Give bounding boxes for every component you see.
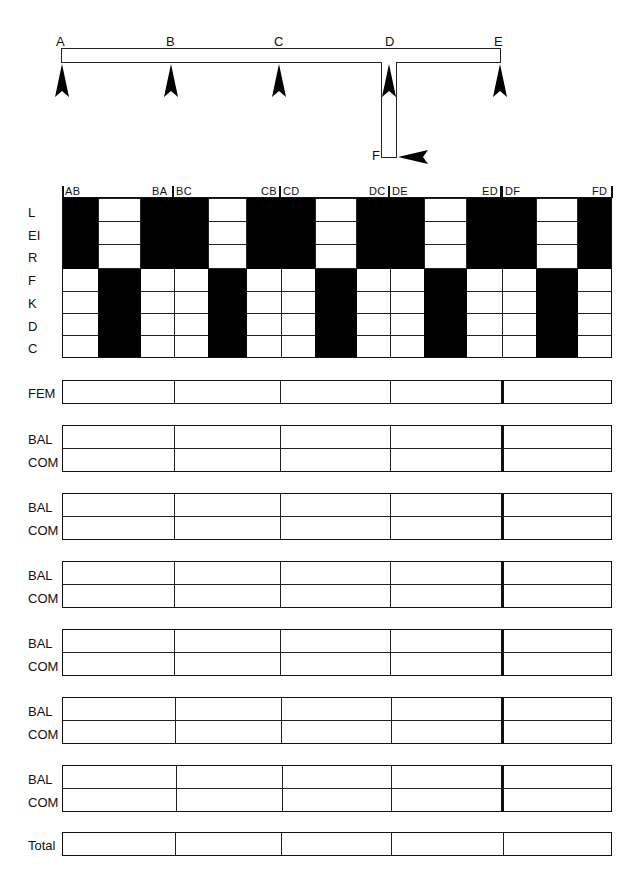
col-header-ed: ED [482, 185, 498, 197]
bal-com-group-4[interactable] [62, 629, 612, 676]
grid-input-ei-df[interactable] [536, 221, 578, 245]
col-header-df: DF [505, 185, 520, 197]
fem-label: FEM [28, 386, 55, 401]
support-icons [0, 0, 643, 200]
support-icon-f [398, 150, 428, 164]
col-header-bc: BC [176, 185, 192, 197]
support-icon-b [164, 64, 178, 97]
row-label-r: R [28, 250, 37, 265]
properties-grid [62, 197, 612, 358]
bal-label-3: BAL [28, 568, 53, 583]
bal-label-5: BAL [28, 704, 53, 719]
grid-fill [467, 198, 536, 269]
col-header-ab: AB [65, 185, 80, 197]
grid-input-r-de[interactable] [424, 244, 467, 269]
bal-com-group-1[interactable] [62, 425, 612, 472]
grid-input-ei-cd[interactable] [315, 221, 357, 245]
bal-label-1: BAL [28, 432, 53, 447]
grid-input-l-cd[interactable] [315, 198, 357, 222]
row-label-c: C [28, 341, 37, 356]
bal-com-group-2[interactable] [62, 493, 612, 540]
com-label-5: COM [28, 727, 58, 742]
row-label-d: D [28, 319, 37, 334]
fem-row[interactable] [62, 380, 612, 404]
support-icon-a [55, 64, 69, 97]
grid-input-r-ab[interactable] [98, 244, 141, 269]
grid-bottom-lines [63, 269, 611, 357]
col-header-ba: BA [152, 185, 167, 197]
support-icon-e [493, 64, 507, 97]
grid-fill [63, 198, 98, 269]
bal-com-group-5[interactable] [62, 697, 612, 744]
row-label-k: K [28, 296, 37, 311]
total-row[interactable] [62, 832, 612, 856]
grid-input-r-cd[interactable] [315, 244, 357, 269]
bal-com-group-6[interactable] [62, 765, 612, 812]
bal-label-4: BAL [28, 636, 53, 651]
support-icon-c [272, 64, 286, 97]
col-header-cb: CB [261, 185, 277, 197]
row-label-f: F [28, 273, 36, 288]
grid-input-l-ab[interactable] [98, 198, 141, 222]
row-label-l: L [28, 205, 35, 220]
grid-input-r-df[interactable] [536, 244, 578, 269]
row-label-ei: EI [28, 228, 40, 243]
grid-input-r-bc[interactable] [208, 244, 247, 269]
grid-fill [247, 198, 315, 269]
bal-label-6: BAL [28, 772, 53, 787]
com-label-4: COM [28, 659, 58, 674]
bal-com-group-3[interactable] [62, 561, 612, 608]
col-header-cd: CD [283, 185, 300, 197]
grid-fill [578, 198, 611, 269]
grid-input-ei-de[interactable] [424, 221, 467, 245]
support-icon-d [382, 64, 396, 97]
grid-input-ei-bc[interactable] [208, 221, 247, 245]
grid-fill [357, 198, 424, 269]
grid-input-l-de[interactable] [424, 198, 467, 222]
grid-input-l-df[interactable] [536, 198, 578, 222]
com-label-3: COM [28, 591, 58, 606]
col-header-de: DE [392, 185, 408, 197]
grid-fill [141, 198, 208, 269]
com-label-2: COM [28, 523, 58, 538]
col-header-fd: FD [592, 185, 607, 197]
total-label: Total [28, 838, 55, 853]
grid-input-l-bc[interactable] [208, 198, 247, 222]
grid-input-ei-ab[interactable] [98, 221, 141, 245]
bal-label-2: BAL [28, 500, 53, 515]
col-header-dc: DC [369, 185, 386, 197]
com-label-1: COM [28, 455, 58, 470]
com-label-6: COM [28, 795, 58, 810]
